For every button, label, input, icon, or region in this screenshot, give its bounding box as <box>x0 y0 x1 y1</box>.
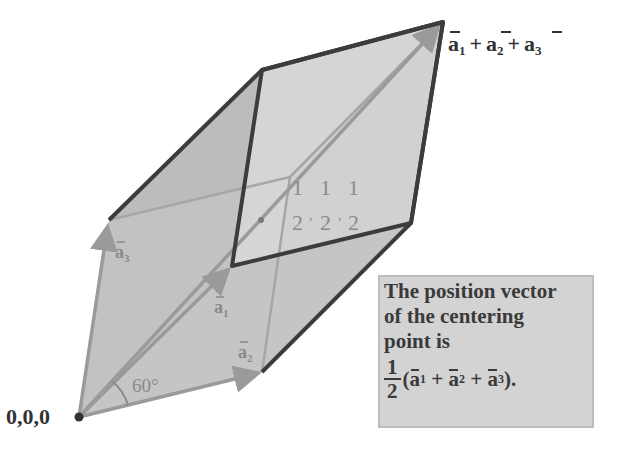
svg-text:1: 1 <box>320 175 331 200</box>
svg-text:,: , <box>309 208 313 223</box>
centering-point-note: The position vector of the centering poi… <box>378 275 594 428</box>
svg-text:,: , <box>338 208 342 223</box>
svg-text:1: 1 <box>292 175 303 200</box>
center-point <box>258 217 264 223</box>
origin-label: 0,0,0 <box>6 404 50 429</box>
svg-text:1: 1 <box>348 175 359 200</box>
svg-text:2: 2 <box>292 210 303 235</box>
note-line-2: of the centering <box>384 304 588 329</box>
note-line-3: point is <box>384 329 588 354</box>
svg-text:2: 2 <box>320 210 331 235</box>
origin-point <box>75 413 84 422</box>
diagonal-tip-label: a1+a2+a3 <box>448 31 562 58</box>
one-half-fraction: 1 2 <box>384 356 401 402</box>
centering-formula: 1 2 (a1 + a2 + a3). <box>384 356 588 402</box>
svg-text:a1+a2+a3: a1+a2+a3 <box>448 31 542 58</box>
svg-text:2: 2 <box>348 210 359 235</box>
note-line-1: The position vector <box>384 279 588 304</box>
angle-label: 60° <box>132 375 159 396</box>
